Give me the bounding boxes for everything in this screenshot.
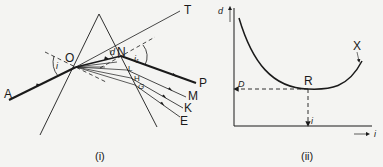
label-g: G (138, 82, 144, 91)
label-i-min: i (311, 116, 314, 126)
label-y-axis: d (218, 6, 224, 16)
label-k: K (184, 101, 192, 115)
label-angle-i1: i₁ (134, 54, 139, 64)
label-x-axis: i (374, 129, 377, 139)
angle-arc-i1 (143, 45, 147, 65)
refracted-ray (76, 56, 121, 67)
incident-ray (9, 67, 76, 100)
label-n: N (117, 45, 126, 59)
caption-ii: (ii) (301, 150, 313, 162)
ray-arrow-icon (160, 102, 165, 106)
label-d-min: D (238, 79, 245, 89)
x-pointer (357, 52, 359, 61)
label-x: X (353, 39, 361, 53)
figure-i-prism: A O N T P L H G M K E i i₁ d (i) (4, 3, 207, 162)
caption-i: (i) (95, 150, 105, 162)
label-l: L (128, 64, 133, 73)
label-angle-i: i (56, 61, 59, 71)
deviation-curve (239, 18, 362, 89)
diagram-canvas: A O N T P L H G M K E i i₁ d (i) d i R D… (0, 0, 383, 167)
label-e: E (180, 114, 188, 128)
label-t: T (184, 3, 192, 17)
label-p: P (199, 76, 207, 90)
label-r: R (304, 74, 313, 88)
figure-ii-graph: d i R D i X (ii) (218, 6, 377, 162)
label-o: O (65, 51, 74, 65)
ray-arrow-icon (168, 87, 173, 91)
label-a: A (4, 87, 12, 101)
label-angle-d: d (110, 47, 116, 57)
